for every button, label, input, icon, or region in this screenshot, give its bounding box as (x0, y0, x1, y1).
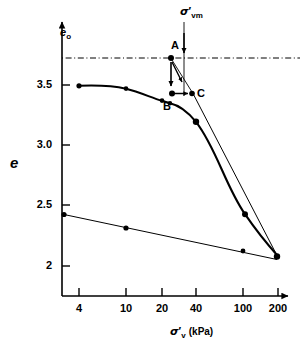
y-tick-label-3-5: 3.5 (26, 79, 52, 90)
sigma-vm-sigma-glyph: σ (180, 5, 189, 18)
y-axis-label: e (10, 155, 18, 170)
y-tick-label-2: 2 (26, 260, 52, 271)
rebound-line (64, 215, 277, 260)
y-axis (62, 22, 70, 296)
x-tick-label-200: 200 (266, 303, 290, 314)
x-axis (62, 288, 288, 296)
point-label-a: A (171, 40, 179, 51)
point-label-b: B (163, 101, 171, 112)
a-to-c-connector (172, 60, 192, 92)
x-tick-label-20: 20 (150, 303, 174, 314)
compression-curve (79, 86, 277, 255)
x-tick-label-40: 40 (184, 303, 208, 314)
path-a-to-c-arrow (172, 62, 182, 82)
figure-canvas: 3.5 3.0 2.5 2 e 4 10 20 40 100 200 σ′v (… (0, 0, 305, 351)
x-tick-label-4: 4 (67, 303, 91, 314)
x-axis-label-subscript: v (181, 331, 185, 340)
sigma-vm-label: σ′vm (180, 6, 203, 20)
e0-subscript: o (66, 32, 71, 41)
e0-label: eo (60, 27, 71, 41)
x-tick-label-10: 10 (114, 303, 138, 314)
sigma-vm-subscript: vm (191, 11, 203, 20)
x-axis-label: σ′v (kPa) (170, 326, 213, 340)
sigma-glyph: σ (170, 325, 179, 338)
point-label-c: C (197, 88, 205, 99)
y-tick-label-2-5: 2.5 (26, 199, 52, 210)
x-axis-unit: (kPa) (189, 326, 213, 337)
chart-svg (0, 0, 305, 351)
c-to-end-line (193, 94, 277, 256)
y-tick-label-3-0: 3.0 (26, 139, 52, 150)
x-tick-label-100: 100 (231, 303, 255, 314)
